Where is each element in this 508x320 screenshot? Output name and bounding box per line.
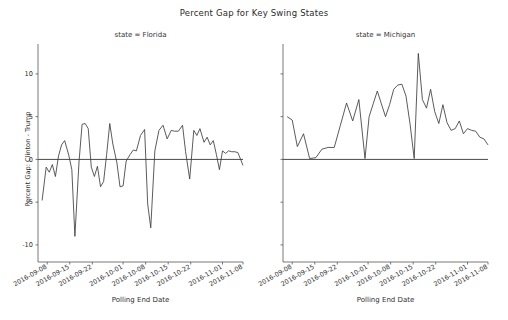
series-line-florida: [42, 124, 243, 237]
subplot-florida: 1050-5-102016-09-082016-09-152016-09-222…: [12, 44, 244, 288]
plot-area: 1050-5-102016-09-082016-09-152016-09-222…: [0, 0, 508, 320]
axis-spine: [38, 44, 243, 262]
figure-canvas: Percent Gap for Key Swing States state =…: [0, 0, 508, 320]
subplot-michigan: 2016-09-082016-09-152016-09-222016-10-01…: [257, 44, 489, 288]
x-axis-label-michigan: Polling End Date: [283, 296, 488, 304]
series-line-michigan: [287, 53, 488, 158]
x-axis-label-florida: Polling End Date: [38, 296, 243, 304]
y-axis-label: Percent Gap: Clinton - Trump: [24, 79, 32, 239]
panel-title-florida: state = Florida: [38, 31, 243, 39]
figure-title: Percent Gap for Key Swing States: [0, 8, 508, 18]
axis-spine: [283, 44, 488, 262]
y-tick-label: -10: [22, 241, 33, 249]
panel-title-michigan: state = Michigan: [283, 31, 488, 39]
y-tick-label: 10: [25, 70, 33, 78]
